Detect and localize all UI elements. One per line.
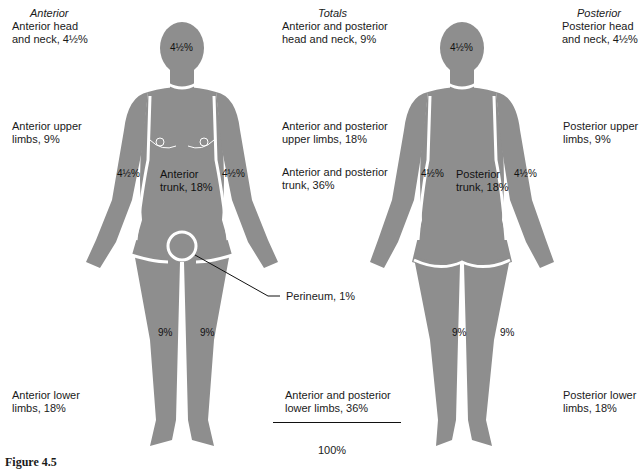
heading-posterior: Posterior [577, 7, 621, 20]
anterior-head-neck-label: Anterior head and neck, 4½% [12, 20, 88, 46]
anterior-left-leg-percent: 9% [158, 327, 172, 339]
anterior-trunk-percent: Anterior trunk, 18% [160, 168, 213, 194]
posterior-left-leg-percent: 9% [452, 327, 466, 339]
posterior-head-percent: 4½% [450, 42, 473, 54]
anterior-body [86, 22, 278, 446]
anterior-right-leg-percent: 9% [200, 327, 214, 339]
posterior-trunk-percent: Posterior trunk, 18% [456, 168, 509, 194]
totals-trunk-label: Anterior and posterior trunk, 36% [282, 166, 388, 192]
anterior-right-arm-percent: 4½% [222, 168, 245, 180]
anterior-lower-limbs-label: Anterior lower limbs, 18% [12, 389, 80, 415]
heading-totals: Totals [318, 7, 347, 20]
posterior-left-arm-percent: 4½% [421, 168, 444, 180]
posterior-head-neck-label: Posterior head and neck, 4½% [562, 20, 638, 46]
anterior-upper-limbs-label: Anterior upper limbs, 9% [12, 120, 82, 146]
posterior-right-leg-percent: 9% [500, 327, 514, 339]
heading-anterior: Anterior [30, 7, 69, 20]
perineum-callout-label: Perineum, 1% [286, 290, 355, 303]
anterior-left-arm-percent: 4½% [117, 168, 140, 180]
totals-head-neck-label: Anterior and posterior head and neck, 9% [282, 20, 388, 46]
posterior-upper-limbs-label: Posterior upper limbs, 9% [563, 120, 638, 146]
posterior-right-arm-percent: 4½% [514, 168, 537, 180]
posterior-body [370, 22, 554, 446]
figure-caption: Figure 4.5 [5, 456, 57, 468]
totals-sum-rule [273, 422, 401, 423]
totals-sum-label: 100% [318, 444, 346, 457]
posterior-lower-limbs-label: Posterior lower limbs, 18% [563, 389, 636, 415]
anterior-head-percent: 4½% [170, 42, 193, 54]
totals-lower-limbs-label: Anterior and posterior lower limbs, 36% [285, 389, 391, 415]
totals-upper-limbs-label: Anterior and posterior upper limbs, 18% [282, 120, 388, 146]
